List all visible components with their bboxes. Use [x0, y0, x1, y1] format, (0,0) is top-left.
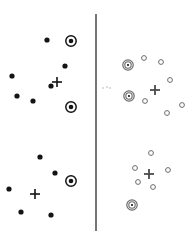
bullseye-core: [69, 39, 74, 44]
speck-mark: [102, 87, 104, 89]
filled-dot-marker: [9, 73, 14, 78]
filled-dot-marker: [14, 93, 19, 98]
open-circle-marker: [136, 180, 141, 185]
bullseye-open-marker: [123, 60, 133, 70]
open-circle-marker: [168, 78, 173, 83]
bullseye-core: [131, 204, 133, 206]
filled-dot-marker: [6, 186, 11, 191]
filled-dot-marker: [62, 63, 67, 68]
bullseye-open-marker: [124, 91, 134, 101]
bullseye-open-marker: [127, 200, 137, 210]
open-circle-marker: [165, 111, 170, 116]
open-circle-marker: [149, 151, 154, 156]
open-circle-marker: [133, 166, 138, 171]
scatter-plot-svg: [0, 0, 192, 238]
speck-mark: [109, 87, 111, 89]
bullseye-core: [69, 179, 74, 184]
bullseye-core: [127, 64, 129, 66]
filled-dot-marker: [48, 83, 53, 88]
bullseye-core: [128, 95, 130, 97]
filled-dot-marker: [52, 170, 57, 175]
open-circle-marker: [151, 185, 156, 190]
filled-dot-marker: [44, 37, 49, 42]
filled-dot-marker: [37, 154, 42, 159]
bullseye-core: [69, 105, 74, 110]
filled-dot-marker: [30, 98, 35, 103]
filled-dot-marker: [48, 212, 53, 217]
speck-mark: [106, 86, 108, 88]
open-circle-marker: [180, 103, 185, 108]
open-circle-marker: [142, 56, 147, 61]
open-circle-marker: [159, 60, 164, 65]
open-circle-marker: [143, 99, 148, 104]
filled-dot-marker: [18, 209, 23, 214]
scatter-figure-container: [0, 0, 192, 238]
open-circle-marker: [166, 168, 171, 173]
